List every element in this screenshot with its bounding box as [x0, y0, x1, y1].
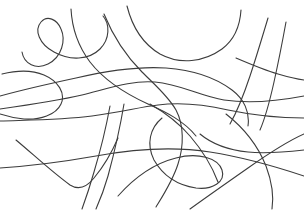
curve-svg	[0, 0, 304, 210]
drawing-canvas	[0, 0, 304, 210]
